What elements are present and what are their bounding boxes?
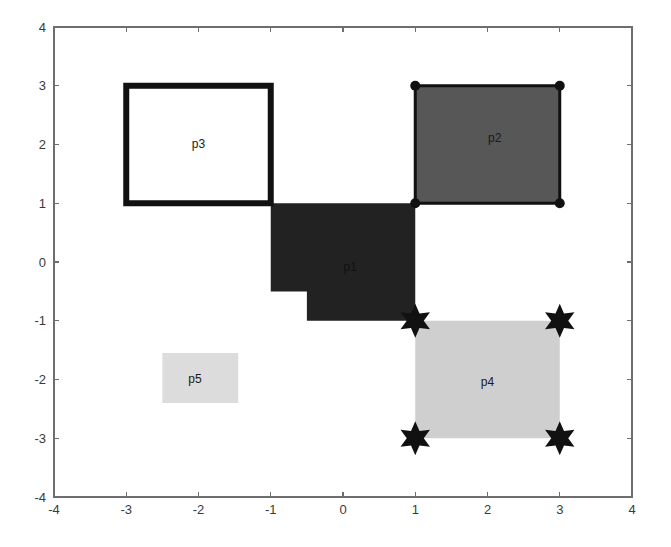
x-tick-label: 1 — [412, 502, 419, 517]
y-tick-label: 0 — [39, 255, 46, 270]
x-tick-label: 3 — [556, 502, 563, 517]
x-tick-label: -1 — [265, 502, 277, 517]
vertex-marker-circle-p2-2 — [555, 81, 565, 91]
x-tick-label: 0 — [339, 502, 346, 517]
vertex-marker-circle-p2-1 — [410, 81, 420, 91]
polygon-label-p4: p4 — [481, 375, 495, 389]
y-tick-label: 1 — [39, 196, 46, 211]
y-tick-label: 2 — [39, 137, 46, 152]
y-tick-label: -1 — [34, 313, 46, 328]
polygon-label-p2: p2 — [488, 131, 502, 145]
y-tick-label: 4 — [39, 20, 46, 35]
vertex-marker-circle-p2-0 — [410, 198, 420, 208]
figure-canvas: p1p2p3p4p5 -4-3-2-10123443210-1-2-3-4 — [0, 0, 671, 547]
x-tick-label: 4 — [628, 502, 635, 517]
x-tick-label: -2 — [193, 502, 205, 517]
polygon-label-p1: p1 — [344, 260, 358, 274]
polygon-label-p3: p3 — [192, 137, 206, 151]
y-tick-label: -2 — [34, 372, 46, 387]
vertex-marker-circle-p2-3 — [555, 198, 565, 208]
y-tick-label: 3 — [39, 78, 46, 93]
x-tick-label: -3 — [120, 502, 132, 517]
y-tick-label: -4 — [34, 490, 46, 505]
polygon-plot: p1p2p3p4p5 -4-3-2-10123443210-1-2-3-4 — [0, 0, 671, 547]
x-tick-label: -4 — [48, 502, 60, 517]
y-tick-label: -3 — [34, 431, 46, 446]
x-tick-label: 2 — [484, 502, 491, 517]
polygon-label-p5: p5 — [188, 372, 202, 386]
